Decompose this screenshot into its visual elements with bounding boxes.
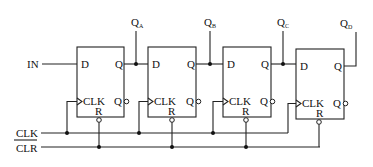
ff3-d: D [227,58,235,70]
ff1-q: Q [115,58,123,70]
output-qa-label: QA [131,16,144,29]
junction-dot [134,62,138,66]
output-qc-label: QC [277,16,289,29]
ff1-r: R [95,105,103,117]
inversion-bubble-icon [343,101,348,106]
ff4-q: Q [334,60,342,72]
flip-flop-3: D Q CLK Q R [211,47,275,149]
junction-dot [137,131,141,135]
ff1-d: D [81,58,89,70]
ff2-d: D [152,58,160,70]
reset-bubble-icon [170,118,175,123]
ff4-r: R [316,107,324,119]
flip-flop-1: D Q CLK Q R [65,47,129,149]
inversion-bubble-icon [196,99,201,104]
junction-dot [281,62,285,66]
inversion-bubble-icon [270,99,275,104]
ff3-r: R [242,105,250,117]
ff4-qbar: Q [333,97,341,109]
junction-dot [97,145,101,149]
in-label: IN [27,58,39,70]
output-qb-label: QB [204,16,216,29]
reset-bubble-icon [97,118,102,123]
junction-dot [208,62,212,66]
clk-label: CLK [16,127,38,139]
junction-dot [170,145,174,149]
clr-label: CLR [16,142,38,154]
ff2-q: Q [187,58,195,70]
ff4-d: D [300,60,308,72]
junction-dot [211,131,215,135]
ff3-q: Q [261,58,269,70]
junction-dot [244,145,248,149]
ff1-qbar: Q [114,95,122,107]
ff3-qbar: Q [260,95,268,107]
flip-flop-4: D Q CLK Q R [288,49,348,147]
reset-bubble-icon [244,118,249,123]
output-qd-label: QD [340,17,353,30]
flip-flop-2: D Q CLK Q R [137,47,201,149]
reset-bubble-icon [317,120,322,125]
inversion-bubble-icon [124,99,129,104]
junction-dot [65,131,69,135]
ff2-qbar: Q [186,95,194,107]
ff2-r: R [168,105,176,117]
shift-register-diagram: IN CLK CLR D Q CLK Q R QA D Q CLK Q R [0,0,373,167]
